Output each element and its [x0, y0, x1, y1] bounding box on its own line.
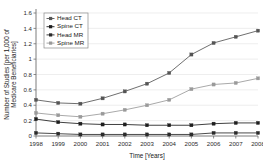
- y-tick-label: 1: [29, 55, 33, 62]
- data-point-marker: [256, 77, 259, 80]
- data-point-marker: [234, 35, 237, 38]
- x-tick-label: 2006: [207, 140, 221, 147]
- data-point-marker: [256, 131, 259, 134]
- data-point-marker: [234, 81, 237, 84]
- data-point-marker: [34, 131, 37, 134]
- y-tick-label: 0.8: [24, 71, 33, 78]
- legend-marker-square: [49, 25, 52, 28]
- data-point-marker: [79, 115, 82, 118]
- data-point-marker: [57, 132, 60, 135]
- data-point-marker: [212, 41, 215, 44]
- y-tick-label: 1.2: [24, 40, 33, 47]
- data-point-marker: [212, 122, 215, 125]
- data-point-marker: [190, 53, 193, 56]
- x-tick-label: 2001: [96, 140, 110, 147]
- data-point-marker: [168, 71, 171, 74]
- data-point-marker: [123, 133, 126, 136]
- y-tick-label: 1.6: [24, 9, 33, 16]
- x-tick-label: 1998: [29, 140, 43, 147]
- x-tick-label: 1999: [51, 140, 65, 147]
- data-point-marker: [212, 131, 215, 134]
- data-point-marker: [145, 104, 148, 107]
- data-point-marker: [101, 112, 104, 115]
- data-point-marker: [57, 114, 60, 117]
- y-axis-title-line2: Medicare Beneficiaries]: [10, 41, 18, 108]
- y-tick-label: 0: [29, 132, 33, 139]
- legend-item-label[interactable]: Head CT: [57, 14, 82, 21]
- data-point-marker: [145, 133, 148, 136]
- data-point-marker: [168, 133, 171, 136]
- data-point-marker: [123, 90, 126, 93]
- data-point-marker: [190, 133, 193, 136]
- legend-item-label[interactable]: Spine CT: [57, 22, 83, 29]
- data-point-marker: [145, 124, 148, 127]
- data-point-marker: [168, 98, 171, 101]
- data-point-marker: [101, 97, 104, 100]
- x-tick-label: 2007: [229, 140, 243, 147]
- data-point-marker: [145, 82, 148, 85]
- x-axis-ticks: 1998199920002001200220032004200520062007…: [29, 136, 263, 147]
- legend-item-label[interactable]: Head MR: [57, 31, 84, 38]
- x-tick-label: 2002: [118, 140, 132, 147]
- data-point-marker: [190, 124, 193, 127]
- data-point-marker: [212, 83, 215, 86]
- data-point-marker: [79, 102, 82, 105]
- series-spine-ct: [34, 117, 259, 126]
- y-tick-label: 0.2: [24, 117, 33, 124]
- x-tick-label: 2004: [162, 140, 176, 147]
- data-point-marker: [234, 121, 237, 124]
- data-point-marker: [34, 111, 37, 114]
- data-point-marker: [101, 133, 104, 136]
- legend-marker-square: [49, 33, 52, 36]
- x-tick-label: 2008: [251, 140, 263, 147]
- data-point-marker: [190, 88, 193, 91]
- y-axis-ticks: 00.20.40.60.811.21.41.6: [24, 9, 36, 139]
- legend-marker-square: [49, 42, 52, 45]
- data-point-marker: [256, 121, 259, 124]
- data-point-marker: [57, 101, 60, 104]
- data-point-marker: [34, 117, 37, 120]
- data-point-marker: [79, 122, 82, 125]
- chart-canvas: 00.20.40.60.811.21.41.6 1998199920002001…: [0, 0, 263, 164]
- y-tick-label: 1.4: [24, 25, 33, 32]
- legend-item-label[interactable]: Spine MR: [57, 39, 85, 46]
- x-axis-title: Time [Years]: [129, 152, 165, 160]
- data-point-marker: [123, 108, 126, 111]
- y-tick-label: 0.4: [24, 101, 33, 108]
- x-tick-label: 2003: [140, 140, 154, 147]
- line-chart: 00.20.40.60.811.21.41.6 1998199920002001…: [0, 0, 263, 164]
- data-point-marker: [79, 133, 82, 136]
- data-point-marker: [101, 123, 104, 126]
- data-point-marker: [256, 29, 259, 32]
- x-tick-label: 2000: [74, 140, 88, 147]
- x-tick-label: 2005: [185, 140, 199, 147]
- data-point-marker: [34, 98, 37, 101]
- chart-legend[interactable]: Head CTSpine CTHead MRSpine MR: [44, 13, 88, 48]
- series-head-mr: [34, 131, 259, 136]
- data-point-marker: [234, 131, 237, 134]
- data-point-marker: [57, 121, 60, 124]
- data-point-marker: [123, 123, 126, 126]
- data-point-marker: [168, 124, 171, 127]
- y-tick-label: 0.6: [24, 86, 33, 93]
- legend-marker-square: [49, 17, 52, 20]
